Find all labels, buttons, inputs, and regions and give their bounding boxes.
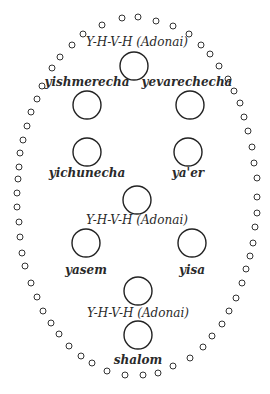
circle-yaer-icon <box>174 138 202 166</box>
ring-dot-icon <box>254 194 260 200</box>
ring-dot-icon <box>99 22 105 28</box>
ring-dot-icon <box>34 294 40 300</box>
ring-dot-icon <box>22 263 28 269</box>
node-yhvh-2: Y-H-V-H (Adonai) <box>86 186 188 227</box>
ring-dot-icon <box>243 266 249 272</box>
circle-yishmerecha-icon <box>73 91 101 119</box>
ring-dot-icon <box>207 51 213 57</box>
ring-dot-icon <box>170 363 176 369</box>
circle-yevarechecha-icon <box>176 91 204 119</box>
ring-dot-icon <box>170 23 176 29</box>
node-yishmerecha: yishmerecha <box>43 75 129 119</box>
ring-dot-icon <box>57 54 63 60</box>
ring-dot-icon <box>200 344 206 350</box>
ring-dot-icon <box>209 333 215 339</box>
node-yasem: yasem <box>64 229 107 277</box>
ring-dot-icon <box>49 65 55 71</box>
ring-dot-icon <box>153 18 159 24</box>
ring-dot-icon <box>241 114 247 120</box>
node-shalom: shalom <box>114 321 163 367</box>
ring-dot-icon <box>69 42 75 48</box>
ring-dot-icon <box>15 176 21 182</box>
ring-dot-icon <box>140 372 146 378</box>
node-yaer: ya'er <box>171 138 206 180</box>
ring-dot-icon <box>78 353 84 359</box>
ring-dot-icon <box>89 360 95 366</box>
ring-dot-icon <box>16 164 22 170</box>
ring-dot-icon <box>216 63 222 69</box>
circle-shalom-icon <box>124 321 152 349</box>
ring-dot-icon <box>48 320 54 326</box>
ring-dot-icon <box>16 219 22 225</box>
node-yevarechecha: yevarechecha <box>141 75 233 119</box>
circle-yhvh-3-icon <box>124 277 152 305</box>
label-yhvh-3: Y-H-V-H (Adonai) <box>87 306 189 320</box>
circle-yichunecha-icon <box>73 138 101 166</box>
ring-dot-icon <box>155 370 161 376</box>
ring-dot-icon <box>40 308 46 314</box>
ring-dot-icon <box>56 331 62 337</box>
label-yhvh-2: Y-H-V-H (Adonai) <box>86 213 188 227</box>
label-yishmerecha: yishmerecha <box>43 75 129 89</box>
ring-dot-icon <box>119 15 125 21</box>
label-yichunecha: yichunecha <box>48 166 125 180</box>
blessing-diagram: Y-H-V-H (Adonai) yishmerecha yevarechech… <box>0 0 270 394</box>
ring-dot-icon <box>237 100 243 106</box>
ring-dot-icon <box>245 128 251 134</box>
ring-dot-icon <box>198 42 204 48</box>
ring-dot-icon <box>251 160 257 166</box>
circle-yasem-icon <box>72 229 100 257</box>
ring-dot-icon <box>187 355 193 361</box>
ring-dot-icon <box>122 372 128 378</box>
circle-yisa-icon <box>178 229 206 257</box>
ring-dot-icon <box>24 123 30 129</box>
node-yhvh-1: Y-H-V-H (Adonai) <box>86 35 188 80</box>
label-shalom: shalom <box>114 353 163 367</box>
ring-dot-icon <box>219 321 225 327</box>
label-yisa: yisa <box>178 263 205 277</box>
ring-dot-icon <box>250 240 256 246</box>
ring-dot-icon <box>28 109 34 115</box>
ring-dot-icon <box>226 308 232 314</box>
dotted-ring <box>14 14 260 378</box>
ring-dot-icon <box>252 224 258 230</box>
ring-dot-icon <box>247 253 253 259</box>
node-yisa: yisa <box>178 229 206 277</box>
ring-dot-icon <box>17 234 23 240</box>
ring-dot-icon <box>254 175 260 181</box>
ring-dot-icon <box>17 150 23 156</box>
ring-dot-icon <box>239 280 245 286</box>
node-yhvh-3: Y-H-V-H (Adonai) <box>87 277 189 320</box>
node-yichunecha: yichunecha <box>48 138 125 180</box>
label-yevarechecha: yevarechecha <box>141 75 233 89</box>
ring-dot-icon <box>28 280 34 286</box>
label-yhvh-1: Y-H-V-H (Adonai) <box>86 35 188 49</box>
label-yaer: ya'er <box>171 166 206 180</box>
ring-dot-icon <box>14 204 20 210</box>
ring-dot-icon <box>19 250 25 256</box>
ring-dot-icon <box>254 210 260 216</box>
ring-dot-icon <box>66 343 72 349</box>
label-yasem: yasem <box>64 263 107 277</box>
ring-dot-icon <box>135 14 141 20</box>
ring-dot-icon <box>104 368 110 374</box>
ring-dot-icon <box>20 137 26 143</box>
ring-dot-icon <box>249 144 255 150</box>
blessing-nodes: Y-H-V-H (Adonai) yishmerecha yevarechech… <box>43 35 232 367</box>
ring-dot-icon <box>14 190 20 196</box>
ring-dot-icon <box>34 96 40 102</box>
circle-yhvh-2-icon <box>123 186 151 214</box>
ring-dot-icon <box>233 295 239 301</box>
